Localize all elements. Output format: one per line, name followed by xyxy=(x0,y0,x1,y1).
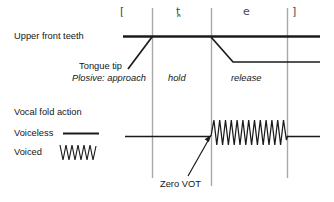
label-voiced: Voiced xyxy=(14,148,42,157)
ipa-open-bracket: [ xyxy=(120,6,124,17)
voiced-legend-squiggle xyxy=(60,145,96,160)
label-zero-vot: Zero VOT xyxy=(160,180,201,189)
ipa-close-bracket: ] xyxy=(292,6,296,17)
label-hold-phase: hold xyxy=(168,74,186,83)
label-tongue-tip: Tongue tip xyxy=(0,62,122,71)
ipa-segment-e: e xyxy=(243,6,250,17)
label-release-phase: release xyxy=(231,74,262,83)
gridlines xyxy=(153,8,288,186)
label-plosive-approach: Plosive: approach xyxy=(0,74,146,83)
diagram-canvas: [ t̪ e ] Upper front teeth Tongue tip Pl… xyxy=(0,0,334,202)
zero-vot-arrow xyxy=(188,135,211,176)
label-vocal-fold-action: Vocal fold action xyxy=(14,108,82,117)
ipa-segment-t-dental: t̪ xyxy=(176,6,180,17)
label-voiceless: Voiceless xyxy=(14,129,53,138)
voicing-waveform xyxy=(211,120,288,145)
label-upper-front-teeth: Upper front teeth xyxy=(14,32,84,41)
tongue-tip-trace xyxy=(128,37,320,69)
